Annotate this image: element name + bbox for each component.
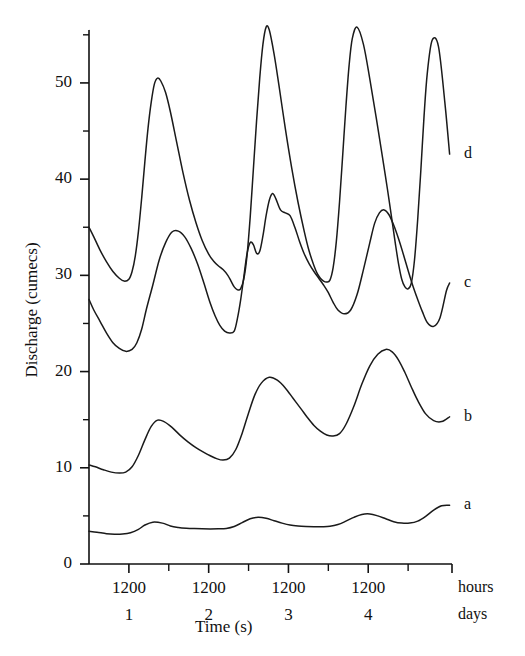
series-curve-c: [89, 194, 450, 352]
x-day-label: 3: [258, 605, 318, 625]
x-day-label: 1: [99, 605, 159, 625]
series-label-a: a: [464, 495, 471, 513]
y-tick-label: 50: [32, 72, 72, 92]
row-label-hours: hours: [458, 578, 494, 596]
series-curve-a: [89, 505, 450, 534]
x-tick-label: 1200: [99, 578, 159, 598]
series-label-d: d: [464, 144, 472, 162]
y-tick-label: 20: [32, 361, 72, 381]
series-label-b: b: [464, 407, 472, 425]
plot-canvas: [0, 0, 525, 656]
x-tick-label: 1200: [338, 578, 398, 598]
chart-figure: Discharge (cumecs) Time (s) 01020304050 …: [0, 0, 525, 656]
y-tick-label: 40: [32, 168, 72, 188]
y-tick-label: 30: [32, 264, 72, 284]
x-tick-label: 1200: [258, 578, 318, 598]
x-day-label: 4: [338, 605, 398, 625]
row-label-days: days: [458, 605, 487, 623]
x-tick-label: 1200: [179, 578, 239, 598]
series-label-c: c: [464, 273, 471, 291]
y-axis-title: Discharge (cumecs): [22, 195, 42, 425]
y-tick-label: 10: [32, 457, 72, 477]
y-tick-label: 0: [32, 553, 72, 573]
series-curve-d: [89, 26, 450, 290]
x-day-label: 2: [179, 605, 239, 625]
series-curve-b: [89, 349, 450, 473]
